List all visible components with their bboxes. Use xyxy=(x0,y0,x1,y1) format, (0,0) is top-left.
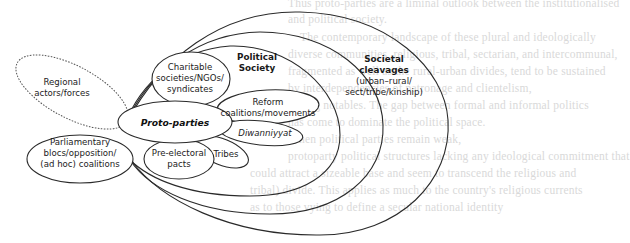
parliamentary-label-1: Parliamentary xyxy=(50,137,110,147)
political-society-title-2: Society xyxy=(239,63,276,73)
regional-label-2: actors/forces xyxy=(34,88,90,98)
charitable-label-3: syndicates xyxy=(167,84,214,94)
societal-cleavages-subtitle-2: sect/tribe/kinship) xyxy=(345,87,423,97)
parliamentary-label-3: (ad hoc) coalitions xyxy=(40,159,120,169)
tribes-label: Tribes xyxy=(212,149,239,159)
reform-label-2: coalitions/movements xyxy=(221,108,316,118)
pre-electoral-label-2: pacts xyxy=(167,159,191,169)
societal-cleavages-title-2: cleavages xyxy=(359,65,408,75)
reform-label-1: Reform xyxy=(253,97,284,107)
regional-label-1: Regional xyxy=(43,77,80,87)
parliamentary-label-2: blocs/opposition/ xyxy=(44,148,117,158)
charitable-label-1: Charitable xyxy=(168,62,212,72)
societal-cleavages-subtitle: (urban–rural/ xyxy=(356,76,412,86)
diwanniyyat-label: Diwanniyyat xyxy=(238,128,292,138)
political-society-title: Political xyxy=(237,52,277,62)
proto-parties-label: Proto-parties xyxy=(141,117,210,128)
charitable-label-2: societies/NGOs/ xyxy=(156,73,224,83)
societal-cleavages-title: Societal xyxy=(364,54,404,64)
pre-electoral-label-1: Pre-electoral xyxy=(152,148,206,158)
